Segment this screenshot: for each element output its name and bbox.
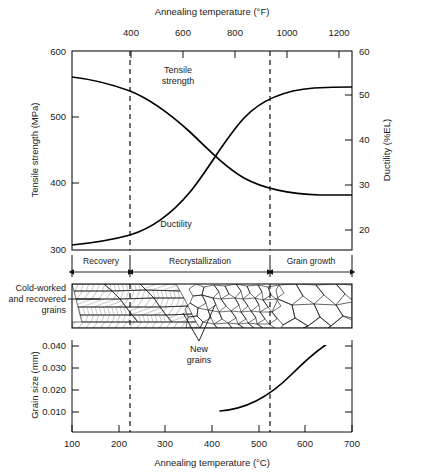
tensile-strength-label-line2: strength [162, 76, 195, 86]
x-tick-100: 100 [64, 438, 80, 449]
top-tick-1000: 1000 [276, 27, 297, 38]
cold-worked-label-line1: Cold-worked [15, 283, 66, 293]
top-tick-1200: 1200 [328, 27, 349, 38]
grain-tick-0020: 0.020 [42, 384, 66, 395]
region-label-recovery: Recovery [83, 256, 120, 266]
left-tick-300: 300 [50, 244, 66, 255]
left-tick-400: 400 [50, 177, 66, 188]
top-axis-title: Annealing temperature (°F) [155, 6, 270, 17]
ductility-label: Ductility [160, 219, 192, 229]
right-tick-50: 50 [359, 89, 370, 100]
right-tick-20: 20 [359, 224, 370, 235]
bottom-axis-title: Annealing temperature (°C) [154, 457, 270, 468]
right-tick-30: 30 [359, 179, 370, 190]
cold-worked-label-line2: and recovered [8, 294, 66, 304]
x-tick-700: 700 [344, 438, 360, 449]
grain-tick-0030: 0.030 [42, 362, 66, 373]
grain-tick-0040: 0.040 [42, 340, 66, 351]
left-tick-500: 500 [50, 111, 66, 122]
top-tick-800: 800 [227, 27, 243, 38]
region-label-grain-growth: Grain growth [287, 256, 336, 266]
x-tick-500: 500 [251, 438, 267, 449]
left-y-axis-title: Tensile strength (MPa) [29, 102, 40, 197]
x-tick-400: 400 [204, 438, 220, 449]
right-y-axis-title: Ductility (%EL) [381, 119, 392, 181]
x-tick-200: 200 [111, 438, 127, 449]
x-tick-300: 300 [157, 438, 173, 449]
new-grains-label-line2: grains [187, 355, 212, 365]
figure-canvas: Annealing temperature (°F) 400 600 800 1… [0, 0, 421, 476]
x-tick-600: 600 [297, 438, 313, 449]
top-tick-400: 400 [123, 27, 139, 38]
top-tick-600: 600 [175, 27, 191, 38]
bottom-y-axis-title: Grain size (mm) [29, 351, 40, 419]
left-tick-600: 600 [50, 46, 66, 57]
new-grains-label-line1: New [190, 344, 209, 354]
grain-tick-0010: 0.010 [42, 406, 66, 417]
right-tick-40: 40 [359, 134, 370, 145]
tensile-strength-label-line1: Tensile [164, 65, 192, 75]
cold-worked-label-line3: grains [41, 305, 66, 315]
region-label-recrystallization: Recrystallization [169, 256, 231, 266]
right-tick-60: 60 [359, 46, 370, 57]
